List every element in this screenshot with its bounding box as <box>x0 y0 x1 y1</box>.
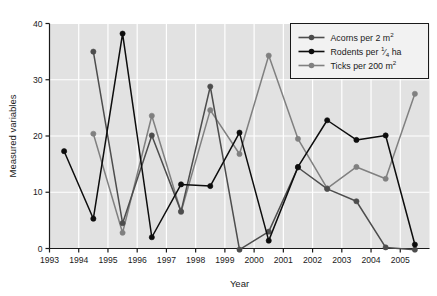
data-point-marker <box>91 216 96 221</box>
legend-item-label: Ticks per 200 m2 <box>331 59 397 70</box>
data-point-marker <box>354 164 359 169</box>
y-tick-label: 20 <box>33 131 43 141</box>
legend-swatch-marker <box>309 49 315 55</box>
data-point-marker <box>149 235 154 240</box>
x-axis-title: Year <box>230 278 249 289</box>
data-point-marker <box>62 149 67 154</box>
data-point-marker <box>266 238 271 243</box>
x-tick-label: 1997 <box>157 255 176 265</box>
data-point-marker <box>412 247 417 252</box>
data-point-marker <box>91 49 96 54</box>
x-tick-label: 2002 <box>303 255 322 265</box>
y-axis-title: Measured variables <box>7 94 18 177</box>
x-tick-label: 1994 <box>69 255 88 265</box>
data-point-marker <box>412 242 417 247</box>
x-tick-label: 1999 <box>215 255 234 265</box>
x-tick-label: 2000 <box>245 255 264 265</box>
data-point-marker <box>354 199 359 204</box>
y-tick-label: 40 <box>33 19 43 29</box>
legend-swatch-marker <box>309 35 315 41</box>
y-tick-label: 30 <box>33 75 43 85</box>
data-point-marker <box>325 186 330 191</box>
data-point-marker <box>354 137 359 142</box>
data-point-marker <box>208 183 213 188</box>
data-point-marker <box>383 133 388 138</box>
data-point-marker <box>266 53 271 58</box>
data-point-marker <box>149 133 154 138</box>
x-tick-label: 2005 <box>391 255 410 265</box>
legend-swatch-marker <box>309 63 315 69</box>
data-point-marker <box>383 176 388 181</box>
x-tick-label: 1995 <box>98 255 117 265</box>
chart-legend: Acorns per 2 m2Rodents per 1⁄4 haTicks p… <box>291 24 429 79</box>
y-tick-label: 0 <box>38 244 43 254</box>
data-point-marker <box>208 108 213 113</box>
data-point-marker <box>91 131 96 136</box>
data-point-marker <box>237 130 242 135</box>
data-point-marker <box>120 221 125 226</box>
data-point-marker <box>237 151 242 156</box>
data-point-marker <box>383 245 388 250</box>
data-point-marker <box>178 182 183 187</box>
data-point-marker <box>295 136 300 141</box>
data-point-marker <box>237 247 242 252</box>
line-chart: 010203040 199319941995199619971998199920… <box>0 0 437 296</box>
data-point-marker <box>120 230 125 235</box>
x-tick-label: 2004 <box>361 255 380 265</box>
y-tick-label: 10 <box>33 187 43 197</box>
chart-figure: 010203040 199319941995199619971998199920… <box>0 0 437 296</box>
x-tick-label: 2001 <box>274 255 293 265</box>
data-point-marker <box>208 84 213 89</box>
data-point-marker <box>120 31 125 36</box>
x-tick-label: 1998 <box>186 255 205 265</box>
x-tick-label: 1996 <box>128 255 147 265</box>
data-point-marker <box>149 113 154 118</box>
data-point-marker <box>325 118 330 123</box>
legend-item-label: Acorns per 2 m2 <box>331 31 395 42</box>
data-point-marker <box>295 164 300 169</box>
data-point-marker <box>412 91 417 96</box>
legend-item-label: Rodents per 1⁄4 ha <box>331 45 402 57</box>
data-point-marker <box>178 209 183 214</box>
x-tick-label: 1993 <box>40 255 59 265</box>
x-tick-label: 2003 <box>332 255 351 265</box>
